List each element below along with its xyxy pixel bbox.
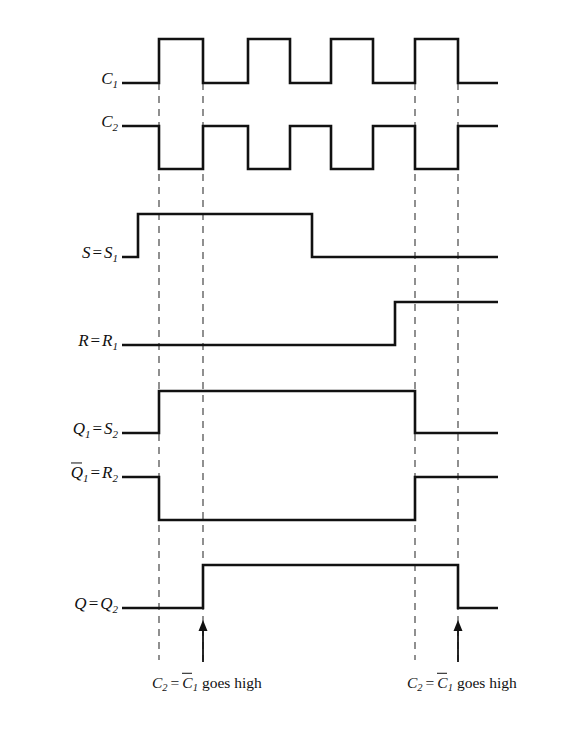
caption-left-equals: = bbox=[168, 674, 183, 691]
signal-label-q1-bar-equals: = bbox=[89, 463, 103, 482]
caption-left-c-sub: 2 bbox=[162, 682, 167, 693]
caption-right: C2=C1goes high bbox=[407, 675, 517, 693]
waveform-canvas bbox=[0, 0, 563, 730]
signal-label-c2: C2 bbox=[101, 113, 118, 132]
annotation-arrows bbox=[199, 620, 463, 662]
signal-label-s-right-base: S bbox=[104, 243, 113, 262]
signal-label-q1-bar-base: Q bbox=[71, 463, 83, 482]
signal-label-q1-right-sub: 2 bbox=[113, 428, 119, 440]
waveform-r-r1 bbox=[122, 302, 498, 345]
caption-right-c-sub: 2 bbox=[417, 682, 422, 693]
waveform-c2 bbox=[122, 126, 498, 169]
waveform-q1bar-r2 bbox=[122, 477, 498, 520]
signal-label-r-right-sub: 1 bbox=[113, 340, 119, 352]
caption-left-cbar-base: C bbox=[182, 674, 192, 691]
signal-label-q1-bar-right-sub: 2 bbox=[113, 472, 119, 484]
caption-left-words: goes high bbox=[198, 674, 262, 691]
signal-label-r-equals: = bbox=[89, 331, 103, 350]
signal-label-s-right-sub: 1 bbox=[113, 252, 119, 264]
signal-label-q-left: Q bbox=[74, 594, 86, 613]
signal-label-r: R=R1 bbox=[78, 332, 118, 351]
caption-left-cbar-overline: C bbox=[182, 675, 192, 691]
arrow-head-2 bbox=[454, 620, 463, 631]
caption-left-c-base: C bbox=[152, 674, 162, 691]
waveform-c1 bbox=[122, 39, 498, 83]
signal-label-q-right-base: Q bbox=[100, 594, 112, 613]
waveform-q-q2 bbox=[122, 565, 498, 608]
caption-left: C2=C1goes high bbox=[152, 675, 262, 693]
arrow-head-1 bbox=[199, 620, 208, 631]
signal-label-s-left: S bbox=[82, 243, 91, 262]
signal-label-q1-right-base: S bbox=[104, 419, 113, 438]
caption-right-equals: = bbox=[423, 674, 438, 691]
signal-label-c1-sub: 1 bbox=[113, 78, 119, 90]
waveform-q1-s2 bbox=[122, 391, 498, 433]
signal-waveforms bbox=[122, 39, 498, 608]
signal-label-s-equals: = bbox=[90, 243, 104, 262]
signal-label-q1-bar-right-base: R bbox=[102, 463, 112, 482]
caption-right-words: goes high bbox=[453, 674, 517, 691]
signal-label-q1-left-base: Q bbox=[73, 419, 85, 438]
waveform-s-s1 bbox=[122, 214, 498, 257]
signal-label-s: S=S1 bbox=[82, 244, 118, 263]
signal-label-q1-equals: = bbox=[90, 419, 104, 438]
signal-label-q-equals: = bbox=[87, 594, 101, 613]
signal-label-c2-base: C bbox=[101, 112, 112, 131]
signal-label-c1-base: C bbox=[101, 69, 112, 88]
signal-label-q1-left-sub: 1 bbox=[85, 428, 91, 440]
caption-right-cbar-base: C bbox=[437, 674, 447, 691]
signal-label-c2-sub: 2 bbox=[113, 121, 119, 133]
signal-label-r-right-base: R bbox=[102, 331, 112, 350]
caption-right-c-base: C bbox=[407, 674, 417, 691]
signal-label-q1: Q1=S2 bbox=[73, 420, 118, 439]
signal-label-c1: C1 bbox=[101, 70, 118, 89]
signal-label-q: Q=Q2 bbox=[74, 595, 118, 614]
signal-label-q1-bar-sub: 1 bbox=[83, 472, 89, 484]
caption-right-cbar-overline: C bbox=[437, 675, 447, 691]
signal-label-q-right-sub: 2 bbox=[113, 603, 119, 615]
signal-label-q1-bar: Q1=R2 bbox=[71, 464, 118, 483]
signal-label-q1-bar-overline: Q bbox=[71, 464, 83, 481]
signal-label-r-left: R bbox=[78, 331, 88, 350]
timing-diagram-figure: C1 C2 S=S1 R=R1 Q1=S2 Q1=R2 Q=Q2 C2=C1go… bbox=[0, 0, 563, 730]
